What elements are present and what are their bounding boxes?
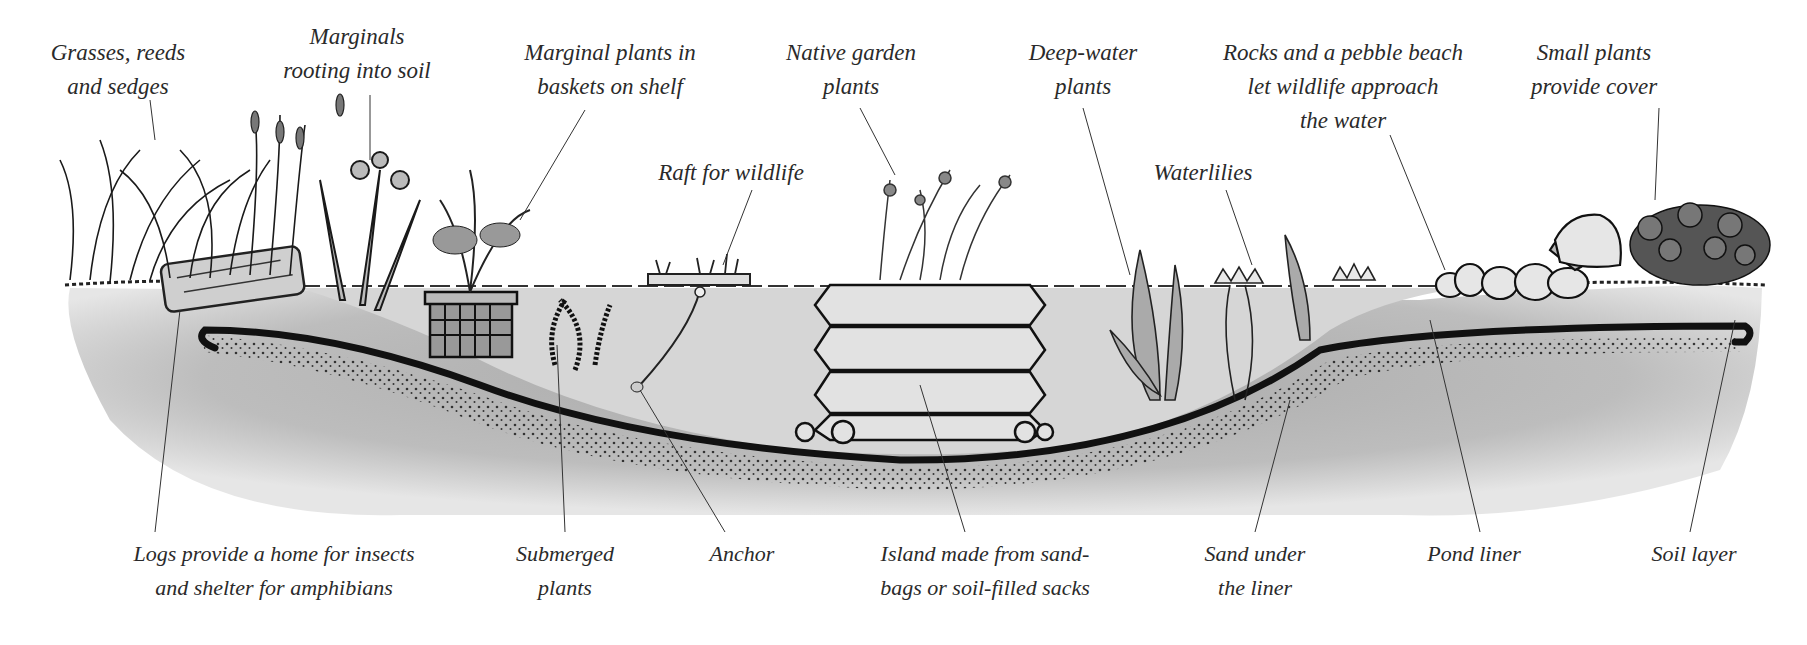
label-small-plants-cover: Small plants provide cover	[1531, 36, 1657, 104]
label-rocks-pebble-beach: Rocks and a pebble beach let wildlife ap…	[1223, 36, 1463, 138]
label-marginals-rooting: Marginals rooting into soil	[283, 20, 430, 88]
label-line: Raft for wildlife	[658, 156, 804, 190]
label-pond-liner: Pond liner	[1427, 537, 1521, 571]
label-line: plants	[1029, 70, 1138, 104]
label-grasses-reeds-sedges: Grasses, reeds and sedges	[51, 36, 186, 104]
label-line: Waterlilies	[1154, 156, 1253, 190]
rocks-pebble-beach	[1436, 215, 1621, 300]
label-line: provide cover	[1531, 70, 1657, 104]
label-line: the water	[1223, 104, 1463, 138]
label-line: Native garden	[786, 36, 916, 70]
label-marginal-baskets: Marginal plants in baskets on shelf	[524, 36, 696, 104]
island-plants	[880, 170, 1011, 280]
label-line: Soil layer	[1652, 537, 1737, 571]
label-line: Marginals	[283, 20, 430, 54]
label-line: let wildlife approach	[1223, 70, 1463, 104]
label-deep-water-plants: Deep-water plants	[1029, 36, 1138, 104]
label-line: and shelter for amphibians	[134, 571, 415, 605]
label-sand-under-liner: Sand under the liner	[1205, 537, 1306, 605]
label-anchor: Anchor	[710, 537, 775, 571]
sandbag-island	[796, 285, 1053, 443]
label-line: Anchor	[710, 537, 775, 571]
label-logs-home-insects: Logs provide a home for insects and shel…	[134, 537, 415, 605]
pond-cross-section-diagram: Grasses, reeds and sedges Marginals root…	[0, 0, 1807, 645]
label-line: Submerged	[516, 537, 614, 571]
label-soil-layer: Soil layer	[1652, 537, 1737, 571]
label-line: plants	[516, 571, 614, 605]
label-line: Rocks and a pebble beach	[1223, 36, 1463, 70]
label-line: the liner	[1205, 571, 1306, 605]
label-native-garden-plants: Native garden plants	[786, 36, 916, 104]
label-line: Sand under	[1205, 537, 1306, 571]
label-line: Grasses, reeds	[51, 36, 186, 70]
label-line: Island made from sand-	[880, 537, 1090, 571]
small-cover-plants	[1630, 203, 1770, 285]
label-line: baskets on shelf	[524, 70, 696, 104]
label-line: and sedges	[51, 70, 186, 104]
cattails	[251, 94, 344, 149]
label-line: Pond liner	[1427, 537, 1521, 571]
label-line: Small plants	[1531, 36, 1657, 70]
label-raft-for-wildlife: Raft for wildlife	[658, 156, 804, 190]
label-line: Logs provide a home for insects	[134, 537, 415, 571]
label-waterlilies: Waterlilies	[1154, 156, 1253, 190]
label-submerged-plants: Submerged plants	[516, 537, 614, 605]
label-line: Deep-water	[1029, 36, 1138, 70]
label-line: rooting into soil	[283, 54, 430, 88]
label-island-sandbags: Island made from sand- bags or soil-fill…	[880, 537, 1090, 605]
label-line: bags or soil-filled sacks	[880, 571, 1090, 605]
label-line: Marginal plants in	[524, 36, 696, 70]
label-line: plants	[786, 70, 916, 104]
